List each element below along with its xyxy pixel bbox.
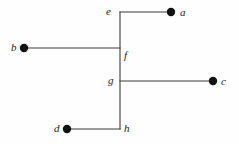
diagram-canvas: [0, 0, 239, 144]
node-label-d: d: [54, 123, 60, 134]
node-marker-c: [209, 77, 217, 85]
node-label-h: h: [124, 123, 130, 134]
tree-diagram-figure: abcdefgh: [0, 0, 239, 144]
node-label-e: e: [106, 6, 111, 17]
node-label-a: a: [180, 7, 186, 18]
node-label-c: c: [221, 76, 226, 87]
node-label-f: f: [124, 50, 127, 61]
node-marker-d: [63, 125, 71, 133]
node-label-g: g: [108, 75, 114, 86]
edges-layer: [24, 12, 213, 129]
node-marker-b: [20, 44, 28, 52]
node-marker-a: [167, 8, 175, 16]
markers-layer: [20, 8, 217, 133]
node-label-b: b: [11, 42, 17, 53]
